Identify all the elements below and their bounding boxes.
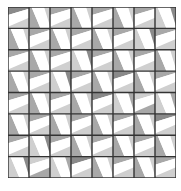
pattern-canvas: [8, 7, 176, 178]
tilted-square-pattern: [8, 7, 176, 178]
